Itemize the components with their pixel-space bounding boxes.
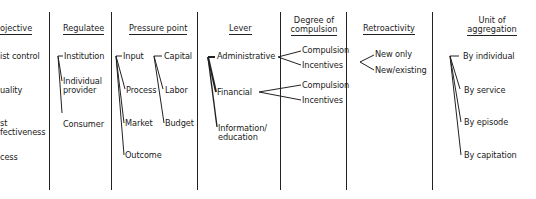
header-pressure-point: Pressure point: [129, 24, 187, 33]
header-regulatee: Regulatee: [63, 24, 104, 33]
pressure-market: Market: [125, 119, 153, 128]
compulsion-admin-incentives: Incentives: [302, 61, 343, 70]
pressure-input: Input: [123, 52, 144, 61]
pressure-budget: Budget: [165, 119, 194, 128]
regulatee-consumer: Consumer: [63, 120, 104, 129]
aggregation-by-service: By service: [464, 86, 505, 95]
objective-quality: uality: [0, 86, 22, 95]
aggregation-by-individual: By individual: [463, 52, 515, 61]
lever-administrative: Administrative: [217, 52, 275, 61]
aggregation-by-episode: By episode: [464, 118, 508, 127]
pressure-process: Process: [126, 86, 156, 95]
aggregation-by-capitation: By capitation: [464, 151, 517, 160]
pressure-capital: Capital: [164, 52, 192, 61]
compulsion-financial-incentives: Incentives: [302, 96, 343, 105]
regulatee-institution: Institution: [64, 52, 104, 61]
pressure-labor: Labor: [165, 86, 188, 95]
header-lever: Lever: [229, 24, 252, 33]
regulatee-individual-provider-line2: provider: [63, 86, 96, 95]
header-degree-of-compulsion: Degree of compulsion: [287, 16, 341, 34]
lever-financial: Financial: [217, 88, 252, 97]
header-retroactivity: Retroactivity: [363, 24, 415, 33]
lever-information-education-line2: education: [218, 133, 258, 142]
header-unit-of-aggregation: Unit of aggregation: [464, 16, 520, 34]
retro-new-existing: New/existing: [375, 66, 427, 75]
compulsion-admin-compulsion: Compulsion: [302, 46, 349, 55]
objective-access: cess: [0, 153, 18, 162]
pressure-outcome: Outcome: [125, 151, 162, 160]
objective-cost-control: ist control: [0, 52, 40, 61]
objective-cost-effectiveness-line2: fectiveness: [0, 128, 45, 137]
header-objective: ojective: [0, 24, 32, 33]
retro-new-only: New only: [375, 50, 412, 59]
policy-dimensions-diagram: ojective ist control uality st fectivene…: [0, 0, 536, 199]
compulsion-financial-compulsion: Compulsion: [302, 81, 349, 90]
